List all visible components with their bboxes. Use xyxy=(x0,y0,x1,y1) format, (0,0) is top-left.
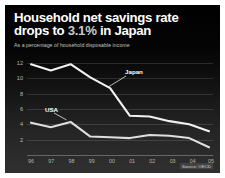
chart-header: Household net savings rate drops to 3.1%… xyxy=(14,11,214,48)
x-axis-label-98: 98 xyxy=(68,158,74,164)
chart-title-highlight: 3.1% xyxy=(68,23,97,38)
x-axis-label-03: 03 xyxy=(170,158,176,164)
x-axis-label-99: 99 xyxy=(89,158,95,164)
chart-title: Household net savings rate drops to 3.1%… xyxy=(14,11,214,38)
y-axis-label-2: 2 xyxy=(9,137,23,143)
chart-frame: Household net savings rate drops to 3.1%… xyxy=(5,5,220,173)
y-axis-label-10: 10 xyxy=(9,75,23,81)
x-axis-label-02: 02 xyxy=(149,158,155,164)
source-note: Source: OECD xyxy=(180,163,213,169)
x-axis-label-97: 97 xyxy=(48,158,54,164)
x-axis-label-96: 96 xyxy=(28,158,34,164)
x-axis-label-00: 00 xyxy=(109,158,115,164)
line-usa xyxy=(31,122,209,147)
series-label-usa: USA xyxy=(45,106,58,113)
leader-line-japan xyxy=(108,76,126,87)
series-label-japan: Japan xyxy=(125,68,143,75)
leader-line-usa xyxy=(54,113,67,120)
x-axis-line xyxy=(27,155,213,156)
x-axis-label-01: 01 xyxy=(129,158,135,164)
line-japan xyxy=(31,64,209,131)
y-axis-label-6: 6 xyxy=(9,106,23,112)
chart-subtitle: As a percentage of household disposable … xyxy=(14,42,214,48)
y-axis-label-8: 8 xyxy=(9,91,23,97)
chart-title-part2: in Japan xyxy=(97,23,151,38)
y-axis-label-4: 4 xyxy=(9,121,23,127)
series-lines xyxy=(27,55,213,155)
y-axis-label-12: 12 xyxy=(9,60,23,66)
plot-area: 12 10 8 6 4 2 Japan USA 96 97 98 99 00 0… xyxy=(27,55,213,155)
chart-screenshot: Household net savings rate drops to 3.1%… xyxy=(0,0,225,178)
